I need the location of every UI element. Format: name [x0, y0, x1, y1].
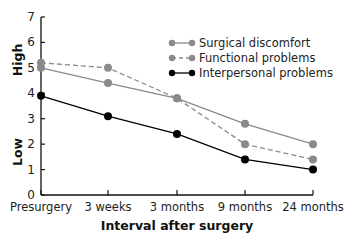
legend-marker — [169, 55, 175, 61]
data-point-marker — [309, 140, 317, 148]
legend-label: Surgical discomfort — [199, 36, 311, 50]
y-tick-label: 6 — [27, 35, 35, 49]
x-tick-label: Presurgery — [10, 200, 72, 214]
data-point-marker — [241, 155, 249, 163]
legend-marker — [189, 70, 195, 76]
x-tick-label: 24 months — [282, 200, 344, 214]
y-tick-label: 4 — [27, 86, 35, 100]
y-axis-label-low: Low — [10, 138, 25, 167]
x-axis: Presurgery3 weeks3 months9 months24 mont… — [10, 190, 344, 214]
y-tick-label: 2 — [27, 137, 35, 151]
data-point-marker — [37, 59, 45, 67]
data-point-marker — [309, 155, 317, 163]
line-chart: 01234567 Presurgery3 weeks3 months9 mont… — [0, 0, 348, 239]
y-axis-label-high: High — [10, 44, 25, 77]
y-tick-label: 7 — [27, 10, 35, 24]
data-point-marker — [241, 120, 249, 128]
y-tick-label: 1 — [27, 163, 35, 177]
legend-label: Functional problems — [199, 51, 315, 65]
data-point-marker — [309, 166, 317, 174]
legend-marker — [189, 55, 195, 61]
y-axis: 01234567 — [27, 10, 45, 202]
data-point-marker — [104, 112, 112, 120]
x-axis-title: Interval after surgery — [101, 218, 253, 233]
x-tick-label: 9 months — [218, 200, 272, 214]
legend: Surgical discomfortFunctional problemsIn… — [169, 36, 333, 80]
legend-marker — [169, 40, 175, 46]
legend-marker — [189, 40, 195, 46]
y-tick-label: 3 — [27, 112, 35, 126]
data-point-marker — [173, 94, 181, 102]
data-point-marker — [241, 140, 249, 148]
data-point-marker — [104, 64, 112, 72]
x-tick-label: 3 months — [150, 200, 204, 214]
data-point-marker — [37, 92, 45, 100]
legend-label: Interpersonal problems — [199, 66, 333, 80]
data-point-marker — [173, 130, 181, 138]
y-tick-label: 5 — [27, 61, 35, 75]
data-point-marker — [104, 79, 112, 87]
x-tick-label: 3 weeks — [84, 200, 131, 214]
legend-marker — [169, 70, 175, 76]
